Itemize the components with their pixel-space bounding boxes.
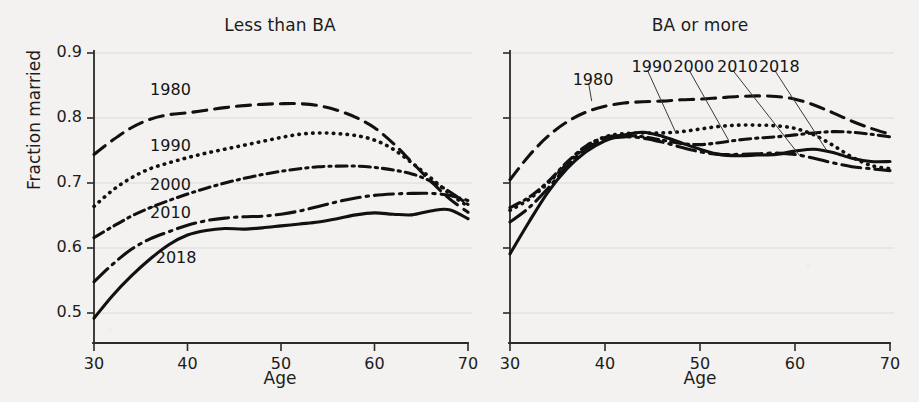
curve-2018-panel1 [94, 209, 468, 318]
x-tick-label: 40 [585, 354, 625, 373]
y-tick-label: 0.5 [42, 302, 82, 321]
y-tick-label: 0.7 [42, 172, 82, 191]
x-tick-label: 70 [870, 354, 910, 373]
x-tick-label: 60 [355, 354, 395, 373]
x-tick-label: 70 [448, 354, 488, 373]
leader-line-1990 [648, 71, 677, 134]
series-label-2018: 2018 [156, 248, 197, 267]
y-tick-label: 0.8 [42, 107, 82, 126]
series-label-2010: 2010 [150, 203, 191, 222]
series-label-2000: 2000 [150, 175, 191, 194]
x-tick-label: 50 [680, 354, 720, 373]
curve-1980-panel1 [94, 104, 468, 213]
curves [94, 96, 890, 318]
x-tick-label: 30 [74, 354, 114, 373]
series-label-1990: 1990 [150, 136, 191, 155]
x-tick-label: 30 [490, 354, 530, 373]
x-tick-label: 60 [775, 354, 815, 373]
figure-root: Less than BA BA or more Fraction married… [0, 0, 919, 402]
y-tick-label: 0.9 [42, 42, 82, 61]
curve-2018-panel2 [510, 132, 890, 254]
series-label-2018: 2018 [759, 57, 800, 76]
leader-line-2010 [733, 71, 800, 156]
gridlines [94, 53, 894, 313]
annotation-leader-lines [589, 71, 827, 156]
x-tick-label: 40 [168, 354, 208, 373]
series-label-1990: 1990 [632, 57, 673, 76]
series-label-2010: 2010 [717, 57, 758, 76]
x-tick-label: 50 [261, 354, 301, 373]
leader-line-2000 [689, 71, 728, 140]
leader-line-2018 [775, 71, 826, 150]
series-label-1980: 1980 [150, 80, 191, 99]
series-label-2000: 2000 [673, 57, 714, 76]
series-label-1980: 1980 [573, 70, 614, 89]
y-tick-label: 0.6 [42, 237, 82, 256]
